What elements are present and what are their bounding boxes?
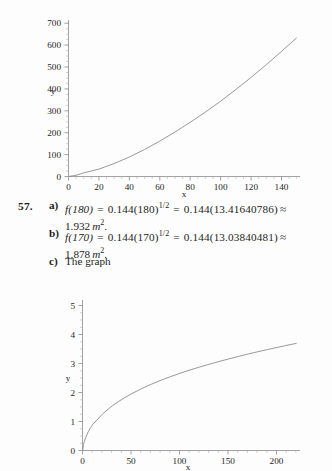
part-a-approx-sign: ≈ [278, 203, 286, 215]
x-tick-label: 200 [270, 456, 284, 466]
chart-bottom-axes [83, 300, 301, 451]
part-a-expr-2: 0.144(13.41640786) [184, 203, 278, 215]
y-tick-label: 3 [70, 359, 75, 369]
part-a-equals-2: = [169, 203, 183, 215]
chart-top-axes [69, 20, 301, 177]
solution-part-c: c) The graph [49, 255, 327, 269]
x-tick-label: 20 [94, 182, 104, 192]
part-a-line-1: f(180)=0.144(180)1/2=0.144(13.41640786)≈ [65, 199, 327, 216]
chart-bottom-curve [83, 343, 297, 450]
x-tick-label: 120 [244, 182, 258, 192]
part-b-equals-1: = [93, 231, 107, 243]
y-axis-label: y [66, 373, 71, 383]
y-tick-label: 1 [70, 417, 75, 427]
y-tick-label: 300 [47, 106, 61, 116]
y-tick-label: 500 [47, 62, 61, 72]
part-a-expr-1-base: 0.144(180) [108, 203, 159, 215]
x-tick-label: 60 [155, 182, 165, 192]
x-tick-label: 150 [221, 456, 235, 466]
y-axis-tick-labels: 0 100 200 300 400 500 600 700 [47, 18, 61, 181]
y-tick-label: 700 [47, 18, 61, 28]
part-b-function: f(170) [65, 231, 93, 243]
x-axis-tick-labels: 0 50 100 150 200 [80, 456, 284, 466]
x-tick-label: 0 [66, 182, 71, 192]
chart-top: 0 100 200 300 400 500 600 700 0 20 40 60… [0, 2, 332, 198]
problem-number: 57. [18, 200, 33, 214]
x-tick-label: 40 [125, 182, 135, 192]
y-tick-label: 200 [47, 128, 61, 138]
y-tick-label: 0 [56, 172, 61, 182]
part-b-line-1: f(170)=0.144(170)1/2=0.144(13.03840481)≈ [65, 227, 327, 244]
solution-block: 57. a) f(180)=0.144(180)1/2=0.144(13.416… [0, 196, 332, 288]
x-tick-label: 100 [214, 182, 228, 192]
part-b-expr-1-base: 0.144(170) [108, 231, 159, 243]
y-axis-tick-labels: 0 1 2 3 4 5 [70, 301, 75, 456]
textbook-page: 0 100 200 300 400 500 600 700 0 20 40 60… [0, 0, 332, 471]
chart-bottom: 0 1 2 3 4 5 0 50 100 150 200 y x [0, 288, 332, 471]
x-axis-label: x [186, 462, 191, 471]
x-tick-label: 0 [80, 456, 85, 466]
part-a-function: f(180) [65, 203, 93, 215]
y-axis-label: y [51, 86, 56, 96]
x-tick-label: 100 [173, 456, 187, 466]
chart-bottom-canvas: 0 1 2 3 4 5 0 50 100 150 200 y x [0, 288, 332, 471]
part-c-text: The graph [65, 255, 327, 269]
y-tick-label: 2 [70, 388, 75, 398]
part-a-label: a) [49, 199, 58, 213]
part-a-expr-1-exponent: 1/2 [159, 201, 170, 210]
y-tick-label: 600 [47, 40, 61, 50]
part-a-equals-1: = [93, 203, 107, 215]
y-tick-label: 100 [47, 150, 61, 160]
part-b-equals-2: = [169, 231, 183, 243]
y-tick-label: 0 [70, 446, 75, 456]
part-c-label: c) [49, 255, 58, 269]
y-tick-label: 5 [70, 301, 75, 311]
chart-top-curve [69, 38, 297, 177]
part-b-expr-2: 0.144(13.03840481) [184, 231, 278, 243]
part-b-approx-sign: ≈ [278, 231, 286, 243]
y-tick-label: 4 [70, 330, 75, 340]
part-b-expr-1-exponent: 1/2 [159, 229, 170, 238]
chart-top-canvas: 0 100 200 300 400 500 600 700 0 20 40 60… [0, 2, 332, 198]
part-b-label: b) [49, 227, 59, 241]
x-tick-label: 140 [275, 182, 289, 192]
x-tick-label: 50 [126, 456, 136, 466]
x-tick-label: 80 [186, 182, 196, 192]
x-axis-tick-labels: 0 20 40 60 80 100 120 140 [66, 182, 289, 192]
